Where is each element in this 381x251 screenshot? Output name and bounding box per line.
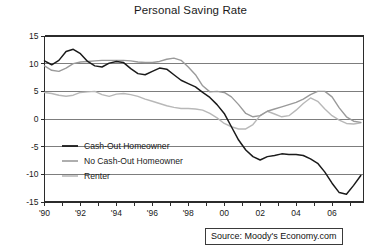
x-tick-label: '98 — [183, 208, 194, 218]
legend-label: Renter — [84, 171, 110, 181]
chart-container: Personal Saving Rate 151050-5-10-15'90'9… — [0, 0, 381, 251]
series-line — [45, 58, 361, 122]
y-tick-label: -5 — [31, 142, 39, 152]
chart-plot-svg: 151050-5-10-15'90'92'94'96'9800020406Cas… — [0, 0, 381, 251]
legend-label: No Cash-Out Homeowner — [84, 156, 183, 166]
y-tick-label: 0 — [34, 114, 39, 124]
source-note: Source: Moody's Economy.com — [205, 228, 343, 245]
x-tick-label: '96 — [147, 208, 158, 218]
x-tick-label: 02 — [255, 208, 265, 218]
y-axis: 151050-5-10-15 — [26, 31, 44, 207]
x-tick-label: 00 — [219, 208, 229, 218]
x-tick-label: 06 — [327, 208, 337, 218]
y-tick-label: 10 — [29, 59, 39, 69]
series-line — [45, 91, 361, 129]
y-tick-label: -15 — [26, 197, 39, 207]
y-tick-label: 5 — [34, 86, 39, 96]
chart-legend: Cash-Out HomeownerNo Cash-Out HomeownerR… — [62, 141, 183, 181]
x-tick-label: 04 — [291, 208, 301, 218]
x-tick-label: '94 — [111, 208, 122, 218]
y-tick-label: -10 — [26, 169, 39, 179]
x-tick-label: '90 — [39, 208, 50, 218]
x-tick-label: '92 — [75, 208, 86, 218]
x-axis: '90'92'94'96'9800020406 — [39, 202, 350, 218]
legend-label: Cash-Out Homeowner — [84, 141, 170, 151]
y-tick-label: 15 — [29, 31, 39, 41]
